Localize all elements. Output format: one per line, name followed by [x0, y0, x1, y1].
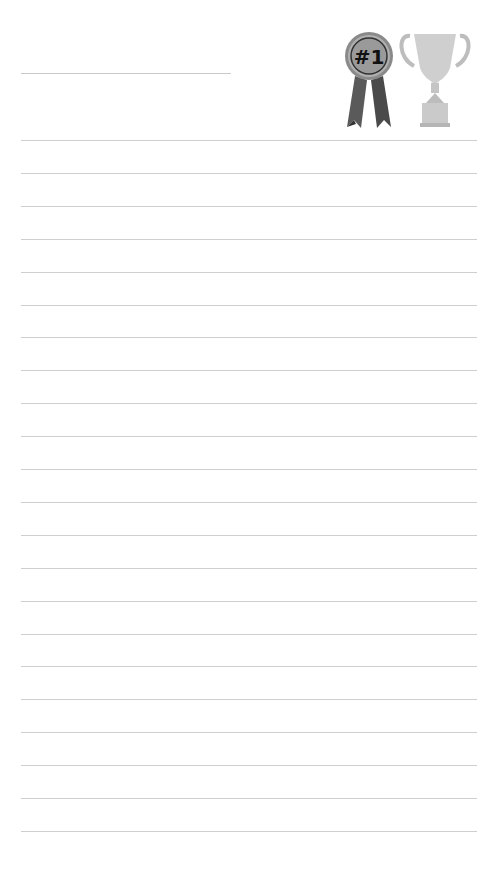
- title-line: [21, 73, 231, 74]
- ruled-line: [21, 239, 477, 240]
- ruled-line: [21, 568, 477, 569]
- ruled-line: [21, 403, 477, 404]
- first-place-ribbon-icon: #1: [343, 30, 395, 130]
- ruled-line: [21, 601, 477, 602]
- ruled-line: [21, 798, 477, 799]
- ruled-line: [21, 469, 477, 470]
- ruled-line: [21, 634, 477, 635]
- ruled-line: [21, 666, 477, 667]
- ruled-line: [21, 765, 477, 766]
- ruled-line: [21, 699, 477, 700]
- ruled-line: [21, 436, 477, 437]
- ruled-line: [21, 173, 477, 174]
- ruled-line: [21, 535, 477, 536]
- ruled-line: [21, 732, 477, 733]
- ruled-line: [21, 140, 477, 141]
- trophy-cup-icon: [396, 28, 474, 128]
- ruled-line: [21, 305, 477, 306]
- ruled-line: [21, 370, 477, 371]
- ribbon-label: #1: [354, 45, 385, 69]
- ruled-line: [21, 272, 477, 273]
- ruled-line: [21, 502, 477, 503]
- ruled-line: [21, 831, 477, 832]
- ruled-line: [21, 337, 477, 338]
- ruled-line: [21, 206, 477, 207]
